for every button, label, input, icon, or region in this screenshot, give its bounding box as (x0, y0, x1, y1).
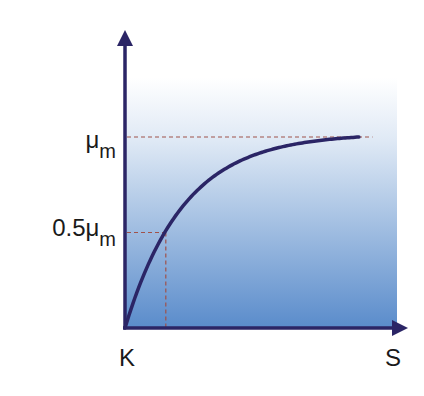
monod-chart: μm 0.5μm K S (0, 0, 424, 396)
y-tick-label-half-mu: 0.5μm (52, 214, 116, 250)
y-axis-arrow-icon (117, 30, 133, 46)
x-axis-label-s: S (385, 344, 401, 371)
y-tick-label-mu-max: μm (86, 126, 117, 162)
x-axis-arrow-icon (392, 320, 408, 336)
x-origin-label-k: K (119, 344, 135, 371)
